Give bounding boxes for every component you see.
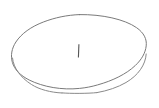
caret-mark[interactable] [78, 44, 79, 57]
canvas-background [0, 0, 159, 108]
drawing-canvas[interactable]: | [0, 0, 159, 108]
vector-drawing [0, 0, 159, 108]
